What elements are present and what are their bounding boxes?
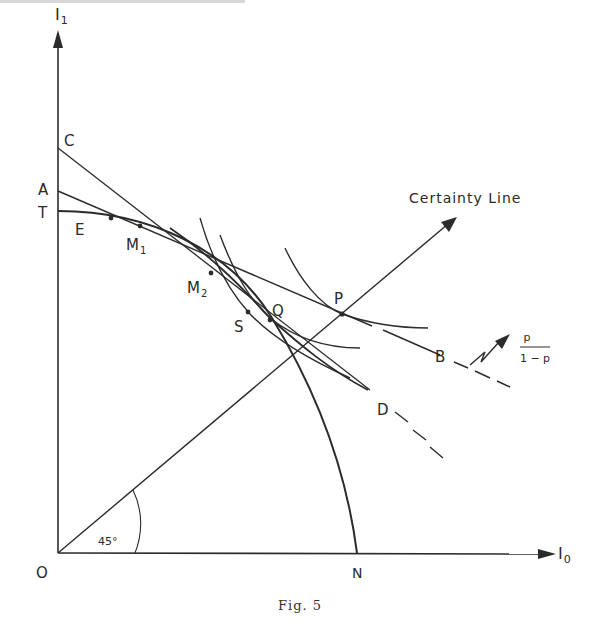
points (109, 216, 345, 323)
slope-arrow-icon (495, 334, 510, 349)
cropped-heading-remnant (0, 0, 245, 3)
label-E: E (75, 221, 84, 239)
angle-arc (133, 490, 141, 553)
point-E (109, 216, 114, 221)
slope-denominator: 1 − p (520, 352, 550, 365)
label-S: S (234, 318, 244, 336)
point-M1 (138, 224, 143, 229)
transformation-curve (58, 211, 357, 553)
label-T: T (37, 204, 48, 222)
label-Q: Q (272, 302, 284, 320)
angle-label: 45° (98, 535, 118, 548)
label-M1: M1 (126, 236, 146, 256)
point-M2 (209, 271, 214, 276)
slope-pointer (470, 334, 510, 365)
label-P: P (334, 290, 343, 308)
x-axis (58, 553, 538, 554)
slope-fraction: p 1 − p (520, 331, 550, 365)
label-N: N (352, 565, 362, 581)
label-B: B (435, 348, 445, 366)
certainty-line (58, 217, 457, 553)
label-C: C (64, 132, 74, 150)
label-M2: M2 (187, 279, 207, 299)
x-axis-arrow-icon (538, 549, 556, 559)
figure-5-diagram: I1 I0 O C A T E M1 M2 S Q P B D N Certai… (0, 0, 597, 634)
label-D: D (377, 401, 389, 419)
y-axis-label: I1 (55, 5, 68, 27)
certainty-line-label: Certainty Line (409, 190, 521, 206)
indifference-curve-P (285, 248, 428, 328)
certainty-arrow-icon (441, 217, 457, 232)
x-axis-label: I0 (558, 544, 571, 566)
figure-caption: Fig. 5 (278, 598, 322, 613)
point-P (339, 311, 344, 316)
axes (53, 30, 556, 559)
label-A: A (38, 181, 49, 199)
slope-numerator: p (524, 331, 531, 344)
y-axis-arrow-icon (53, 30, 63, 48)
origin-label: O (36, 564, 48, 582)
point-S (246, 310, 251, 315)
